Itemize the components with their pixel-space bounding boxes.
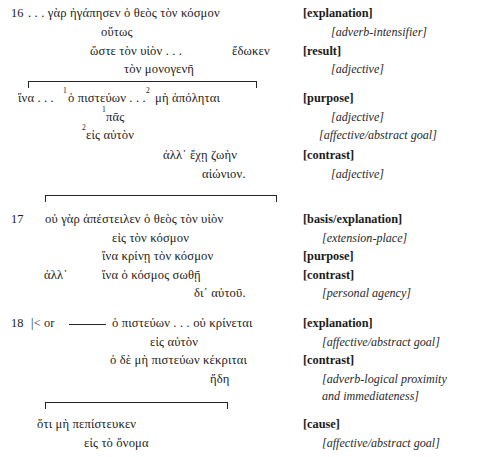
annotation-feature-adjective-2: [adjective] <box>331 110 384 124</box>
annotation-feature-affective-goal-1: [affective/abstract goal] <box>319 128 437 142</box>
greek-line-v16-9: αἰώνιον. <box>202 167 246 181</box>
verse-number-16: 16 <box>11 6 24 20</box>
greek-line-v16-3b: ἔδωκεν <box>232 44 270 58</box>
greek-line-v16-5b: ὁ πιστεύων . . . <box>68 91 146 105</box>
annotation-feature-personal-agency: [personal agency] <box>322 286 411 300</box>
greek-line-v18-1: ὁ πιστεύων . . . οὐ κρίνεται <box>112 316 253 330</box>
annotation-category-contrast-3: [contrast] <box>303 353 354 367</box>
greek-line-v18-3: ὁ δὲ μὴ πιστεύων κέκριται <box>110 353 247 367</box>
annotation-category-purpose-2: [purpose] <box>303 249 354 263</box>
verse-18-marker: |< or <box>31 316 55 330</box>
annotation-feature-adjective-1: [adjective] <box>331 62 384 76</box>
diagram-page: 16 . . . γὰρ ἠγάπησεν ὁ θεὸς τὸν κόσμον … <box>0 0 482 457</box>
greek-line-v16-8: ἀλλ᾽ ἔχῃ ζωὴν <box>163 148 237 162</box>
annotation-feature-affective-goal-3: [affective/abstract goal] <box>322 436 440 450</box>
greek-line-v16-5a: ἵνα . . . <box>18 91 54 105</box>
greek-line-v16-2: οὕτως <box>101 25 133 39</box>
greek-line-v17-1: οὐ γὰρ ἀπέστειλεν ὁ θεὸς τὸν υἱὸν <box>45 212 223 226</box>
greek-line-v16-4: τὸν μονογενῆ <box>124 62 194 76</box>
annotation-feature-adverb-intensifier: [adverb-intensifier] <box>331 25 427 39</box>
annotation-feature-adjective-3: [adjective] <box>331 167 384 181</box>
greek-line-v17-2: εἰς τὸν κόσμον <box>112 231 189 245</box>
annotation-category-contrast-1: [contrast] <box>303 148 354 162</box>
greek-line-v16-6: πᾶς <box>106 110 124 124</box>
greek-line-v18-5: ὅτι μὴ πεπίστευκεν <box>37 417 136 431</box>
annotation-category-purpose-1: [purpose] <box>303 91 354 105</box>
greek-line-v16-3: ὥστε τὸν υἱὸν . . . <box>90 44 182 58</box>
annotation-category-explanation-1: [explanation] <box>303 6 373 20</box>
bracket-v18-bottom <box>45 402 228 409</box>
greek-conjunction-v17-alla: ἀλλ᾽ <box>44 268 68 282</box>
verse-number-18: 18 <box>11 316 24 330</box>
annotation-feature-affective-goal-2: [affective/abstract goal] <box>322 335 440 349</box>
annotation-category-contrast-2: [contrast] <box>303 268 354 282</box>
annotation-category-explanation-2: [explanation] <box>303 316 373 330</box>
greek-line-v17-4: ἵνα ὁ κόσμος σωθῇ <box>102 268 201 282</box>
connector-rule-v18 <box>69 324 106 325</box>
greek-line-v16-7: εἰς αὐτὸν <box>86 128 134 142</box>
bracket-v17-top <box>45 195 277 202</box>
greek-line-v17-5: δι᾽ αὐτοῦ. <box>194 286 246 300</box>
annotation-category-cause: [cause] <box>303 417 340 431</box>
annotation-feature-extension-place: [extension-place] <box>322 231 407 245</box>
annotation-feature-adverb-logical-2: and immediateness] <box>322 389 419 403</box>
annotation-feature-adverb-logical-1: [adverb-logical proximity <box>322 372 447 386</box>
greek-line-v18-6: εἰς τὸ ὄνομα <box>84 436 149 450</box>
greek-line-v16-1: . . . γὰρ ἠγάπησεν ὁ θεὸς τὸν κόσμον <box>28 6 220 20</box>
greek-line-v18-2: εἰς αὐτὸν <box>150 335 198 349</box>
greek-line-v17-3: ἵνα κρίνῃ τὸν κόσμον <box>102 249 213 263</box>
greek-line-v18-4: ἤδη <box>210 372 230 386</box>
annotation-category-basis-explanation: [basis/explanation] <box>303 212 402 226</box>
greek-line-v16-5c: μὴ ἀπόληται <box>155 91 220 105</box>
verse-number-17: 17 <box>11 212 24 226</box>
annotation-category-result: [result] <box>303 44 341 58</box>
